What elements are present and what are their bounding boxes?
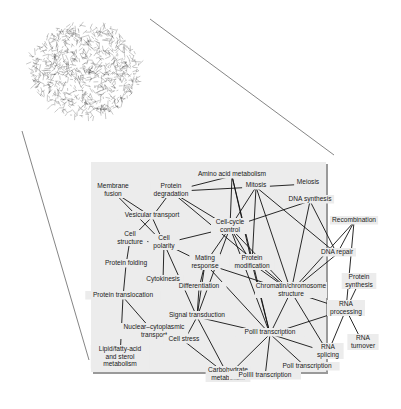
svg-text:modification: modification [234,262,270,269]
svg-text:DNA repair: DNA repair [321,248,354,256]
svg-text:Differentiation: Differentiation [179,282,220,289]
svg-text:Protein translocation: Protein translocation [93,291,153,298]
svg-text:RNA: RNA [339,300,354,307]
svg-text:Protein: Protein [242,254,263,261]
svg-text:Protein: Protein [349,273,370,280]
svg-text:control: control [220,226,240,233]
interaction-network-figure: Amino acid metabolismMembranefusionProte… [0,0,401,409]
node-pol2: PolII transcription [236,328,305,337]
svg-text:and sterol: and sterol [106,353,135,360]
svg-text:structure: structure [117,238,143,245]
svg-text:DNA synthesis: DNA synthesis [289,195,333,203]
svg-text:Meiosis: Meiosis [297,178,320,185]
node-pol3: PolIII transcription [229,371,301,380]
svg-text:RNA: RNA [356,334,371,341]
node-pol1: PolI transcription [274,362,339,371]
svg-text:Protein: Protein [161,182,182,189]
node-membrane: Membranefusion [97,182,129,198]
node-meiosis: Meiosis [294,178,322,187]
node-protsyn: Proteinsynthesis [342,273,377,289]
node-signal: Signal transduction [163,311,232,320]
svg-text:Amino acid metabolism: Amino acid metabolism [198,170,267,177]
node-vesicular: Vesicular transport [118,211,187,220]
svg-text:Cytokinesis: Cytokinesis [146,275,180,283]
node-mating: Matingresponse [189,254,220,270]
node-cellstruct: Cellstructure [113,230,148,246]
svg-text:Protein folding: Protein folding [105,259,147,267]
svg-text:degradation: degradation [154,190,189,198]
svg-text:transport: transport [141,331,167,339]
full-network-hairball [26,22,143,121]
svg-text:metabolism: metabolism [103,360,137,367]
svg-text:splicing: splicing [317,351,339,359]
svg-text:fusion: fusion [104,190,122,197]
svg-text:structure: structure [278,290,304,297]
svg-text:PolIII transcription: PolIII transcription [239,371,292,379]
svg-text:response: response [191,262,218,270]
svg-text:RNA: RNA [321,343,336,350]
svg-text:Cell: Cell [124,230,136,237]
node-prottrans: Protein translocation [85,291,160,300]
node-cellcycle: Cell-cyclecontrol [211,218,249,234]
svg-text:PolII transcription: PolII transcription [245,328,296,336]
svg-text:Signal transduction: Signal transduction [169,311,225,319]
svg-text:Cell: Cell [158,234,170,241]
node-rnaturn: RNAturnover [347,334,378,350]
svg-text:turnover: turnover [351,342,376,349]
node-dnasyn: DNA synthesis [286,195,334,204]
node-rnaproc: RNAprocessing [327,300,365,316]
node-rnasplice: RNAsplicing [312,343,343,359]
svg-text:PolI transcription: PolI transcription [282,362,331,370]
node-protfold: Protein folding [99,259,154,268]
svg-text:processing: processing [330,308,362,316]
node-protmod: Proteinmodification [230,254,275,270]
node-mitosis: Mitosis [242,181,270,190]
node-cellstress: Cell stress [163,335,204,344]
node-lipid: Lipid/fatty-acidand sterolmetabolism [91,345,149,369]
node-chromatin: Chromatin/chromosomestructure [255,282,327,298]
node-dnarepair: DNA repair [318,248,356,257]
svg-text:synthesis: synthesis [345,281,373,289]
svg-text:Vesicular transport: Vesicular transport [125,211,180,219]
svg-text:Mitosis: Mitosis [246,181,267,188]
node-recomb: Recombination [330,216,378,225]
svg-text:Cell stress: Cell stress [169,335,200,342]
svg-text:polarity: polarity [153,242,175,250]
svg-text:Recombination: Recombination [332,216,376,223]
node-diff: Differentiation [172,282,227,291]
svg-text:Chromatin/chromosome: Chromatin/chromosome [256,282,327,289]
node-cellpol: Cellpolarity [148,234,179,250]
node-amino: Amino acid metabolism [194,170,269,179]
node-protdeg: Proteindegradation [150,182,191,198]
svg-text:Membrane: Membrane [97,182,129,189]
